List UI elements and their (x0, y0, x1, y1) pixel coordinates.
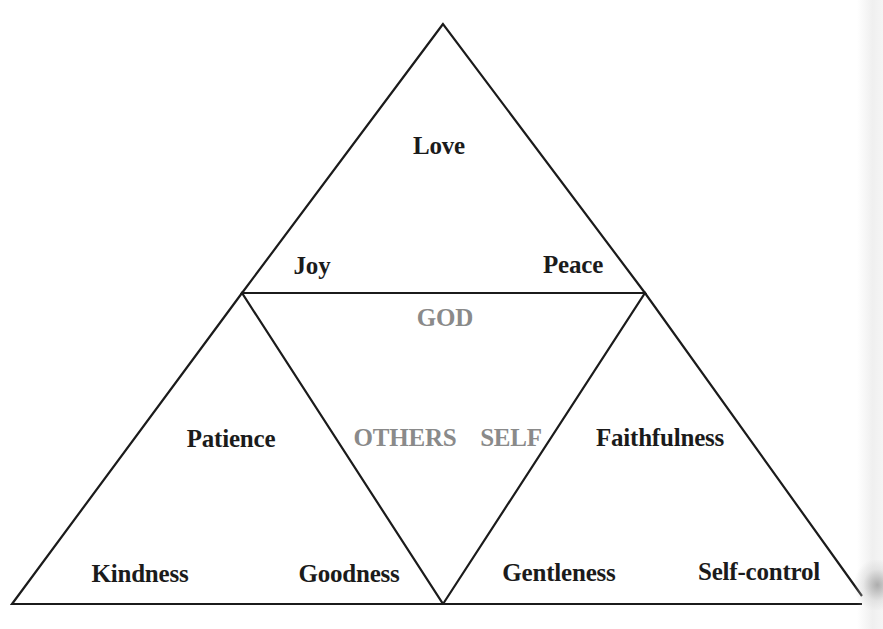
label-gentleness: Gentleness (502, 560, 615, 585)
label-faithfulness: Faithfulness (596, 425, 724, 450)
page-gutter-shadow (857, 0, 883, 629)
diagram-canvas: Love Joy Peace GOD OTHERS SELF Patience … (0, 0, 883, 629)
label-self: SELF (480, 425, 542, 450)
label-peace: Peace (543, 252, 603, 277)
label-goodness: Goodness (298, 561, 399, 586)
label-kindness: Kindness (91, 561, 188, 586)
label-god: GOD (417, 305, 473, 330)
label-love: Love (413, 133, 465, 158)
label-self-control: Self-control (698, 559, 820, 584)
label-joy: Joy (294, 253, 331, 278)
label-patience: Patience (187, 426, 276, 451)
label-others: OTHERS (354, 425, 457, 450)
page-gutter-shadow-dark (855, 560, 883, 610)
